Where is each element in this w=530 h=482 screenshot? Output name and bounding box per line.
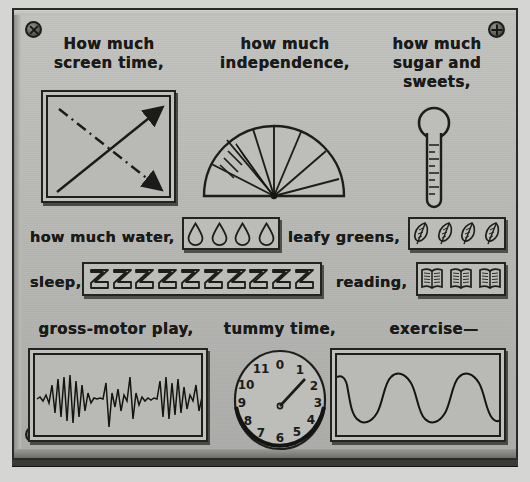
svg-text:11: 11 <box>253 362 270 376</box>
leaf-icon <box>460 221 477 246</box>
reading-meter[interactable] <box>416 262 506 296</box>
screen-time-screen <box>46 95 171 198</box>
parenting-control-panel: How much screen time, how much independe… <box>0 0 530 482</box>
open-book-icon <box>478 267 502 291</box>
leaf-icon <box>413 221 430 246</box>
seismic-waveform <box>35 355 203 437</box>
svg-text:7: 7 <box>257 426 265 440</box>
water-drop-icon <box>234 222 251 245</box>
water-drop-icon <box>211 222 228 245</box>
screen-time-display[interactable] <box>41 90 176 203</box>
letter-z-icon <box>226 268 247 290</box>
sleep-meter[interactable] <box>82 262 322 296</box>
leaf-icon <box>437 221 454 246</box>
svg-text:2: 2 <box>310 379 318 393</box>
letter-z-icon <box>134 268 155 290</box>
label-sugar-sweets: how much sugar and sweets, <box>372 35 502 92</box>
svg-text:6: 6 <box>276 431 284 445</box>
svg-text:10: 10 <box>238 378 255 392</box>
solid-up-right-arrow <box>57 110 159 192</box>
label-gross-motor-play: gross-motor play, <box>26 320 206 339</box>
label-exercise: exercise— <box>364 320 504 339</box>
svg-text:1: 1 <box>296 363 304 377</box>
open-book-icon <box>449 267 473 291</box>
letter-z-icon <box>112 268 133 290</box>
gauge-hub <box>271 193 277 199</box>
sugar-thermometer[interactable] <box>404 105 474 209</box>
svg-text:5: 5 <box>293 425 301 439</box>
svg-text:9: 9 <box>238 396 246 410</box>
tummy-time-clock[interactable]: 0 1 2 3 4 5 6 7 8 9 10 11 <box>228 347 332 455</box>
svg-text:3: 3 <box>314 396 322 410</box>
svg-text:8: 8 <box>244 414 252 428</box>
letter-z-icon <box>157 268 178 290</box>
leafy-greens-meter[interactable] <box>408 217 506 250</box>
screen-time-arrows <box>48 97 171 198</box>
gross-motor-screen <box>33 353 203 437</box>
panel-shell: How much screen time, how much independe… <box>12 8 518 460</box>
label-leafy-greens: leafy greens, <box>288 228 400 247</box>
letter-z-icon <box>248 268 269 290</box>
letter-z-icon <box>294 268 315 290</box>
rounded-square-wave <box>337 355 501 437</box>
label-screen-time: How much screen time, <box>24 35 194 73</box>
exercise-screen <box>335 353 501 437</box>
svg-text:4: 4 <box>307 413 315 427</box>
open-book-icon <box>420 267 444 291</box>
panel-bevel-left <box>14 10 21 458</box>
water-drop-icon <box>187 222 204 245</box>
letter-z-icon <box>271 268 292 290</box>
letter-z-icon <box>203 268 224 290</box>
panel-bevel-top <box>14 10 516 15</box>
thermometer-stem <box>427 133 441 207</box>
label-sleep: sleep, <box>30 273 82 292</box>
label-tummy-time: tummy time, <box>210 320 350 339</box>
label-reading: reading, <box>336 273 408 292</box>
exercise-oscilloscope[interactable] <box>330 348 506 442</box>
label-water: how much water, <box>30 228 175 247</box>
leaf-icon <box>484 221 501 246</box>
letter-z-icon <box>180 268 201 290</box>
independence-gauge[interactable] <box>200 92 348 204</box>
letter-z-icon <box>89 268 110 290</box>
label-independence: how much independence, <box>200 35 370 73</box>
svg-text:0: 0 <box>276 358 284 372</box>
gross-motor-seismograph[interactable] <box>28 348 208 442</box>
water-drop-icon <box>258 222 275 245</box>
water-meter[interactable] <box>182 217 280 250</box>
dashed-down-right-arrow <box>59 109 158 187</box>
